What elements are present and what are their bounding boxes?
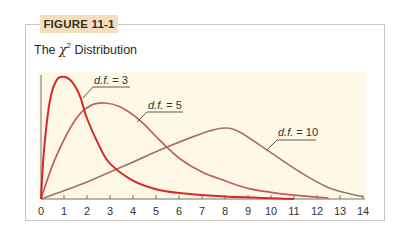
chi-square-chart: 01234567891011121314 d.f. = 3 d.f. = 5 d… — [0, 0, 406, 235]
x-tick-label: 6 — [176, 205, 182, 217]
x-tick-label: 5 — [153, 205, 159, 217]
df5-label: d.f. = 5 — [148, 99, 182, 111]
x-tick-label: 13 — [334, 205, 346, 217]
x-tick-label: 11 — [288, 205, 299, 217]
x-tick-label: 9 — [245, 205, 251, 217]
x-tick-label: 1 — [61, 205, 67, 217]
df10-label: d.f. = 10 — [278, 126, 318, 138]
x-tick-label: 4 — [130, 205, 136, 217]
x-tick-label: 8 — [222, 205, 228, 217]
x-tick-label: 2 — [84, 205, 90, 217]
x-tick-label: 7 — [199, 205, 205, 217]
x-tick-label: 10 — [265, 205, 277, 217]
df3-label: d.f. = 3 — [94, 74, 128, 86]
x-tick-label: 12 — [311, 205, 323, 217]
x-tick-label: 3 — [107, 205, 113, 217]
x-tick-label: 0 — [38, 205, 44, 217]
x-tick-label: 14 — [357, 205, 369, 217]
